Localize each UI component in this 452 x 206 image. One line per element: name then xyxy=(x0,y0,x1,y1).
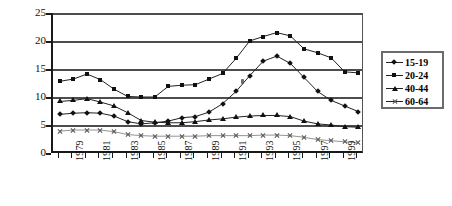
x-tick-1978 xyxy=(58,153,59,158)
plot-area xyxy=(51,13,363,153)
data-point-60-64-1990 xyxy=(220,133,226,139)
x-tick-1983 xyxy=(126,153,127,158)
data-point-20-24-1986 xyxy=(166,84,170,88)
legend-label: 15-19 xyxy=(403,58,428,68)
data-point-20-24-2000 xyxy=(356,71,360,75)
data-point-40-44-1980 xyxy=(84,96,90,101)
data-point-20-24-1997 xyxy=(316,51,320,55)
data-point-60-64-1979 xyxy=(70,127,76,133)
y-tick-mark-10 xyxy=(46,97,51,99)
data-point-20-24-1979 xyxy=(71,77,75,81)
legend-label: 40-44 xyxy=(403,84,428,94)
data-point-40-44-1986 xyxy=(165,120,171,125)
data-point-40-44-1982 xyxy=(111,103,117,108)
y-tick-label-15: 15 xyxy=(22,63,46,74)
legend-label: 20-24 xyxy=(403,71,428,81)
y-axis-labels: 0510152025 xyxy=(22,0,46,206)
data-point-20-24-1978 xyxy=(58,79,62,83)
x-tick-label-1993: 1993 xyxy=(265,140,275,161)
x-tick-label-1985: 1985 xyxy=(157,140,167,161)
data-point-60-64-1982 xyxy=(111,129,117,135)
legend-item-40-44: 40-44 xyxy=(386,82,440,95)
chart-figure: 0510152025 19791981198319851987198919911… xyxy=(0,0,452,206)
x-tick-1997 xyxy=(316,153,317,158)
data-point-20-24-1995 xyxy=(288,34,292,38)
data-point-60-64-1991 xyxy=(233,133,239,139)
data-point-40-44-1989 xyxy=(206,117,212,122)
y-tick-label-25: 25 xyxy=(22,7,46,18)
data-point-40-44-1993 xyxy=(260,112,266,117)
data-point-40-44-1978 xyxy=(57,98,63,103)
data-point-20-24-1984 xyxy=(139,95,143,99)
data-point-20-24-1987 xyxy=(180,83,184,87)
data-point-60-64-1985 xyxy=(152,133,158,139)
data-point-60-64-1995 xyxy=(287,133,293,139)
data-point-60-64-1992 xyxy=(247,133,253,139)
x-tick-label-1997: 1997 xyxy=(320,140,330,161)
data-point-40-44-1999 xyxy=(342,124,348,129)
y-tick-mark-25 xyxy=(46,13,51,15)
x-tick-1991 xyxy=(234,153,235,158)
data-point-60-64-1984 xyxy=(138,133,144,139)
data-point-40-44-1997 xyxy=(315,121,321,126)
data-point-20-24-1988 xyxy=(193,83,197,87)
legend-item-15-19: 15-19 xyxy=(386,56,440,69)
legend-marker-diamond-icon xyxy=(386,57,403,69)
data-point-20-24-1992 xyxy=(248,39,252,43)
data-point-60-64-1986 xyxy=(165,133,171,139)
y-tick-mark-15 xyxy=(46,69,51,71)
y-tick-label-5: 5 xyxy=(22,119,46,130)
legend-item-20-24: 20-24 xyxy=(386,69,440,82)
legend-marker-triangle-icon xyxy=(386,83,403,95)
x-tick-1981 xyxy=(98,153,99,158)
data-point-60-64-1989 xyxy=(206,133,212,139)
x-tick-label-1991: 1991 xyxy=(238,140,248,161)
data-point-60-64-1987 xyxy=(179,133,185,139)
data-point-40-44-1983 xyxy=(125,110,131,115)
x-tick-label-1999: 1999 xyxy=(347,140,357,161)
data-point-20-24-1999 xyxy=(343,70,347,74)
data-point-20-24-1981 xyxy=(98,78,102,82)
x-tick-1989 xyxy=(207,153,208,158)
data-point-40-44-1984 xyxy=(138,118,144,123)
x-tick-1993 xyxy=(261,153,262,158)
data-point-20-24-1994 xyxy=(275,31,279,35)
x-tick-label-1987: 1987 xyxy=(184,140,194,161)
data-point-60-64-1994 xyxy=(274,132,280,138)
series-layer xyxy=(53,13,362,151)
x-tick-label-1989: 1989 xyxy=(211,140,221,161)
data-point-60-64-1993 xyxy=(260,132,266,138)
scan-artifact-speck xyxy=(241,79,244,84)
x-tick-1979 xyxy=(71,153,72,158)
x-tick-label-1979: 1979 xyxy=(75,140,85,161)
y-tick-mark-0 xyxy=(46,153,51,155)
data-point-40-44-1985 xyxy=(152,119,158,124)
data-point-60-64-1983 xyxy=(125,132,131,138)
data-point-20-24-1998 xyxy=(329,56,333,60)
x-tick-label-1981: 1981 xyxy=(102,140,112,161)
data-point-20-24-1980 xyxy=(85,72,89,76)
data-point-20-24-1996 xyxy=(302,47,306,51)
data-point-40-44-1996 xyxy=(301,118,307,123)
x-tick-1982 xyxy=(112,153,113,158)
legend: 15-1920-2440-4460-64 xyxy=(381,51,444,109)
data-point-60-64-1988 xyxy=(192,133,198,139)
data-point-20-24-1990 xyxy=(221,71,225,75)
y-tick-mark-20 xyxy=(46,41,51,43)
legend-marker-cross-icon xyxy=(386,96,403,108)
data-point-20-24-1982 xyxy=(112,87,116,91)
y-tick-label-10: 10 xyxy=(22,91,46,102)
x-tick-1980 xyxy=(85,153,86,158)
data-point-40-44-1987 xyxy=(179,120,185,125)
data-point-20-24-1985 xyxy=(153,95,157,99)
data-point-40-44-1995 xyxy=(287,114,293,119)
x-tick-1999 xyxy=(343,153,344,158)
data-point-40-44-1998 xyxy=(328,122,334,127)
x-tick-1996 xyxy=(302,153,303,158)
data-point-40-44-1990 xyxy=(220,116,226,121)
data-point-40-44-1991 xyxy=(233,114,239,119)
data-point-40-44-1981 xyxy=(97,99,103,104)
data-point-20-24-1989 xyxy=(207,77,211,81)
data-point-20-24-1993 xyxy=(261,35,265,39)
data-point-40-44-1988 xyxy=(192,119,198,124)
